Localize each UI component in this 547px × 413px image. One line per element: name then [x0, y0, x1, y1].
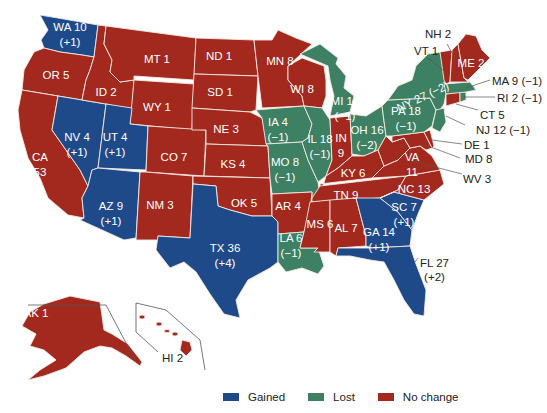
label-ct: CT 5 [480, 108, 505, 122]
label-nh: NH 2 [425, 27, 451, 41]
state-sd[interactable] [192, 74, 258, 112]
swatch-gained-icon [223, 393, 239, 401]
label-md: MD 8 [465, 152, 492, 166]
label-de: DE 1 [464, 138, 490, 152]
label-ri: RI 2 (−1) [497, 91, 542, 105]
label-vt: VT 1 [414, 44, 438, 58]
legend-label-no-change: No change [403, 391, 459, 403]
swatch-lost-icon [308, 393, 324, 401]
us-map [0, 0, 547, 413]
state-me[interactable] [458, 34, 490, 80]
state-wy[interactable] [130, 80, 194, 130]
label-hi: HI 2 [162, 351, 183, 365]
state-mt[interactable] [104, 26, 196, 82]
label-wv: WV 3 [463, 172, 491, 186]
legend: Gained Lost No change [223, 391, 481, 403]
legend-item-lost: Lost [308, 391, 355, 403]
state-nd[interactable] [194, 38, 258, 76]
swatch-no-change-icon [378, 393, 394, 401]
label-fl: FL 27(+2) [420, 256, 449, 284]
label-ma: MA 9 (−1) [492, 74, 542, 88]
state-fl[interactable] [336, 246, 426, 316]
legend-label-gained: Gained [248, 391, 285, 403]
state-ks[interactable] [204, 144, 270, 178]
label-nj: NJ 12 (−1) [476, 123, 530, 137]
state-hi[interactable] [139, 315, 192, 356]
state-ma[interactable] [444, 82, 476, 94]
legend-label-lost: Lost [333, 391, 355, 403]
state-nm[interactable] [136, 172, 193, 240]
inset-frame-hawaii-left [136, 303, 158, 352]
legend-item-gained: Gained [223, 391, 285, 403]
state-co[interactable] [146, 126, 206, 176]
legend-item-no-change: No change [378, 391, 459, 403]
state-ak[interactable] [22, 296, 142, 380]
